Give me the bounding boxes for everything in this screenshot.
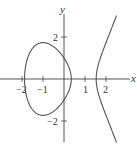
x-tick-label: −1 [37, 84, 48, 95]
elliptic-curve-chart: −2 −1 1 2 2 −2 y x [0, 0, 137, 146]
x-tick-label: 1 [83, 84, 88, 95]
y-tick-label: −2 [47, 116, 58, 127]
x-tick-label: 2 [103, 84, 108, 95]
y-axis-label: y [59, 3, 65, 15]
x-axis-label: x [130, 72, 136, 84]
y-tick-label: 2 [53, 32, 58, 43]
